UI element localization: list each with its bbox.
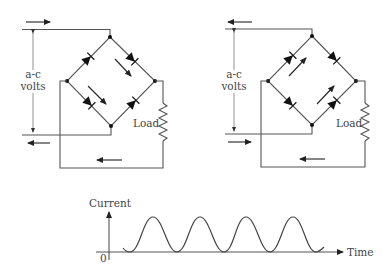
current-time-graph: Current Time 0	[89, 197, 374, 264]
ac-label: a-c	[25, 68, 41, 80]
arrow-path-bottom-left	[88, 86, 106, 104]
node-top	[310, 34, 314, 38]
rectified-current-waveform	[123, 217, 324, 252]
bridge-rectifier-diagram: a-c volts Load a-c volts	[0, 0, 387, 274]
volts-label: volts	[220, 80, 246, 92]
bridge-diamond	[67, 37, 155, 126]
node-top	[108, 35, 112, 39]
output-wire-right	[356, 81, 365, 103]
input-wire-top	[225, 29, 312, 36]
volts-label: volts	[19, 80, 45, 92]
arrow-path-top-left	[289, 58, 306, 76]
x-axis-label: Time	[347, 246, 374, 258]
load-label: Load	[133, 117, 160, 129]
load-label: Load	[336, 117, 363, 129]
load-resistor	[159, 103, 167, 141]
node-bottom	[310, 123, 314, 127]
arrow-path-top-right	[115, 59, 131, 76]
origin-label: 0	[100, 252, 107, 264]
ac-label: a-c	[226, 68, 242, 80]
y-axis-label: Current	[89, 197, 132, 209]
bridge-diamond	[268, 36, 356, 125]
arrow-path-bottom-right	[317, 86, 334, 104]
circuit-right: a-c volts Load	[220, 22, 369, 167]
node-bottom	[109, 124, 113, 128]
output-wire-right	[155, 81, 163, 103]
circuit-left: a-c volts Load	[19, 22, 167, 168]
input-wire-top	[22, 30, 110, 38]
input-wire-bottom	[22, 126, 111, 135]
input-wire-bottom	[225, 125, 312, 134]
